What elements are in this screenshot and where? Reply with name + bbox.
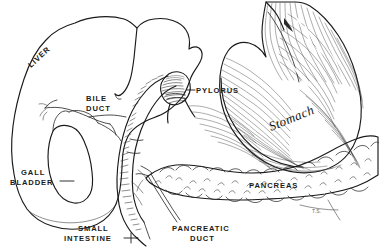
illustration-canvas: LIVER GALL BLADDER BILE DUCT [0,0,379,248]
bile-duct-label-line2: DUCT [86,104,111,113]
pancreas-label: PANCREAS [249,181,298,190]
bile-duct-label-line1: BILE [86,94,107,103]
gall-bladder-label-line1: GALL [21,168,45,177]
pylorus-label: PYLORUS [196,86,239,95]
small-intestine-label-line2: INTESTINE [64,234,112,243]
small-intestine-label-line1: SMALL [78,224,109,233]
gall-bladder-label-line2: BLADDER [10,178,53,187]
anatomical-illustration: LIVER GALL BLADDER BILE DUCT [0,0,379,248]
pancreatic-duct-label-line1: PANCREATIC [172,224,230,233]
pancreatic-duct-label-line2: DUCT [190,234,215,243]
